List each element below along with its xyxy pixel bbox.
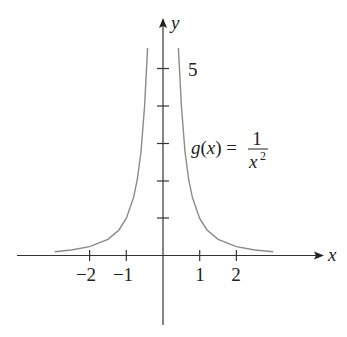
- function-label: g(x) = 1 x 2: [191, 128, 268, 172]
- fraction-denominator: x: [248, 151, 258, 172]
- x-tick-labels: −2 −1 1 2: [76, 264, 241, 285]
- svg-text:g(x) =: g(x) =: [191, 137, 237, 159]
- curve-left-branch: [55, 48, 148, 252]
- x-tick-label: 2: [231, 264, 241, 285]
- x-tick-label: 1: [195, 264, 205, 285]
- y-axis-label: y: [169, 12, 180, 33]
- fraction-numerator: 1: [252, 128, 262, 149]
- function-graph: x y −2 −1 1 2 5 g(x) = 1 x 2: [0, 0, 347, 337]
- y-tick-label-5: 5: [188, 59, 198, 80]
- x-axis-label: x: [327, 244, 337, 265]
- fraction-exponent: 2: [260, 149, 266, 163]
- x-tick-label: −2: [76, 264, 96, 285]
- x-tick-label: −1: [113, 264, 133, 285]
